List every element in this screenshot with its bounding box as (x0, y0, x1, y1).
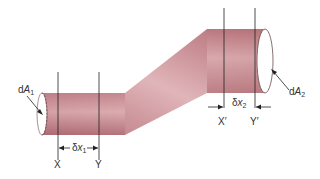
label-x: X (54, 160, 61, 170)
label-da2: dA2 (289, 87, 305, 98)
label-da1: dA1 (18, 85, 34, 96)
arrow-right-icon (218, 105, 223, 110)
label-delta-x2: δx2 (232, 98, 246, 109)
arrow-left-icon (59, 146, 64, 151)
pipe-right-section (207, 29, 265, 93)
arrow-right-icon (93, 146, 98, 151)
label-delta-x1: δx1 (72, 143, 86, 154)
arrow-left-icon (256, 105, 261, 110)
label-x-prime: X′ (218, 117, 227, 127)
label-y: Y (95, 160, 102, 170)
pipe-diagram (0, 0, 320, 179)
da2-pointer (273, 71, 289, 90)
label-y-prime: Y′ (250, 117, 259, 127)
outlet-face (257, 29, 273, 93)
pipe-left-section (42, 93, 125, 135)
